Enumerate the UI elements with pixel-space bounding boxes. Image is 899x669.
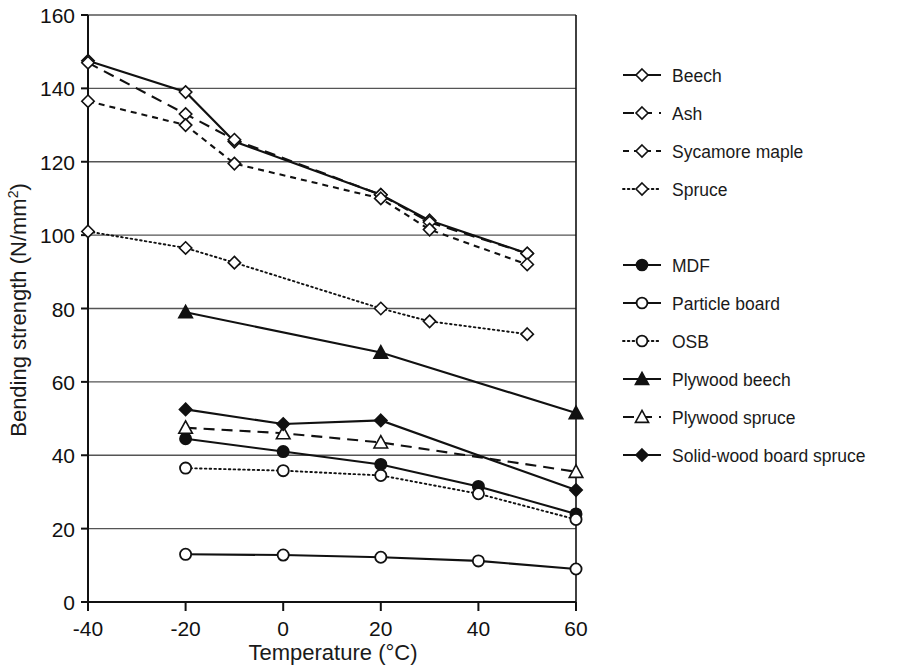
y-tick-label: 40 [52,444,75,467]
data-point [278,446,289,457]
y-axis-title: Bending strength (N/mm2) [5,183,31,437]
legend-marker-sample [637,260,648,271]
y-tick-label: 140 [40,77,75,100]
legend-label: Solid-wood board spruce [672,446,866,466]
legend-marker-sample [637,336,648,347]
chart-background [0,0,899,669]
x-tick-label: -40 [73,617,103,640]
data-point [570,514,581,525]
data-point [180,433,191,444]
legend-label: OSB [672,332,709,352]
legend-label: Ash [672,104,702,124]
data-point [473,555,484,566]
x-axis-title: Temperature (°C) [249,640,418,665]
y-tick-label: 160 [40,4,75,27]
y-tick-label: 120 [40,151,75,174]
bending-strength-line-chart: 020406080100120140160 -40-200204060 Beec… [0,0,899,669]
data-point [473,488,484,499]
x-tick-label: 40 [467,617,490,640]
x-tick-label: 0 [277,617,289,640]
y-tick-label: 100 [40,224,75,247]
data-point [375,459,386,470]
data-point [278,549,289,560]
y-tick-label: 80 [52,298,75,321]
legend-label: Plywood spruce [672,408,796,428]
legend-label: Beech [672,66,722,86]
legend-label: Plywood beech [672,370,791,390]
data-point [570,563,581,574]
data-point [375,552,386,563]
data-point [180,549,191,560]
data-point [278,465,289,476]
x-tick-label: -20 [170,617,200,640]
y-tick-label: 0 [63,591,75,614]
x-tick-label: 20 [369,617,392,640]
legend-label: Sycamore maple [672,142,803,162]
data-point [180,462,191,473]
y-tick-label: 20 [52,518,75,541]
legend-label: Particle board [672,294,780,314]
x-tick-label: 60 [564,617,587,640]
chart-figure: 020406080100120140160 -40-200204060 Beec… [0,0,899,669]
legend-label: MDF [672,256,710,276]
legend-label: Spruce [672,180,727,200]
data-point [375,470,386,481]
y-tick-label: 60 [52,371,75,394]
legend-marker-sample [637,298,648,309]
